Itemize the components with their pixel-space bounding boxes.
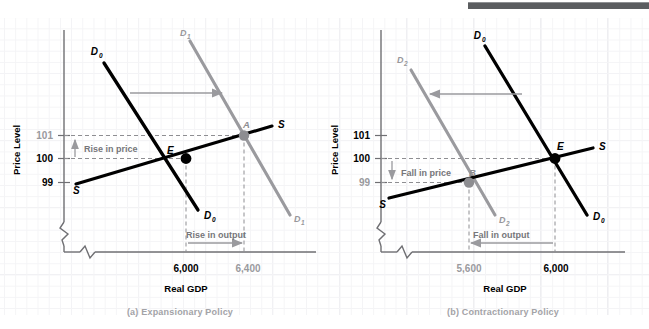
curve-label-d0-bottom: D 0 xyxy=(593,211,605,224)
point-a-marker xyxy=(239,130,249,140)
svg-text:2: 2 xyxy=(403,60,408,67)
svg-text:D: D xyxy=(204,210,211,221)
point-e-marker xyxy=(181,153,192,164)
curve-d0 xyxy=(485,46,587,215)
point-label-a: A xyxy=(242,119,250,130)
panel-caption: (a) Expansionary Policy xyxy=(127,307,233,317)
x-axis-title: Real GDP xyxy=(164,283,208,294)
curve-label-d0-top: D 0 xyxy=(91,46,103,59)
panel-caption: (b) Contractionary Policy xyxy=(447,307,559,317)
annotation-output-change: Fall in output xyxy=(473,230,530,240)
svg-text:D: D xyxy=(474,30,481,41)
svg-text:D: D xyxy=(294,214,301,224)
curve-label-d1-top: D 1 xyxy=(180,28,191,40)
x-tick-label-5600: 5,600 xyxy=(456,263,481,274)
curve-label-s-right: S xyxy=(278,119,285,130)
svg-text:D: D xyxy=(180,28,187,38)
annotation-output-change: Rise in output xyxy=(186,230,246,240)
annotation-price-change: Rise in price xyxy=(84,144,138,154)
svg-text:1: 1 xyxy=(187,33,191,40)
x-axis-break-icon xyxy=(397,246,412,258)
x-tick-label-6400: 6,400 xyxy=(235,263,260,274)
curve-label-d0-top: D 0 xyxy=(474,30,486,43)
y-axis-break-icon xyxy=(60,222,68,246)
svg-text:D: D xyxy=(499,215,506,225)
point-label-e: E xyxy=(557,141,564,152)
panel-expansionary-policy: Price Level 101 100 99 6,000 6,400 Real … xyxy=(0,0,324,329)
curve-label-d2-top: D 2 xyxy=(397,55,408,67)
svg-text:0: 0 xyxy=(212,216,216,223)
annotation-price-change: Fall in price xyxy=(401,168,451,178)
curve-label-d0-bottom: D 0 xyxy=(204,210,216,223)
svg-text:D: D xyxy=(91,46,98,57)
y-axis-break-icon xyxy=(377,222,385,246)
curve-d0 xyxy=(104,63,198,210)
point-e-marker xyxy=(550,153,561,164)
curve-label-d2-bottom: D 2 xyxy=(499,215,510,227)
point-b-marker xyxy=(464,177,474,187)
curve-d2 xyxy=(411,70,495,215)
curve-label-d1-bottom: D 1 xyxy=(294,214,305,226)
point-label-b: B xyxy=(469,167,476,178)
svg-text:0: 0 xyxy=(601,217,605,224)
y-tick-label-101: 101 xyxy=(353,130,370,141)
svg-text:1: 1 xyxy=(301,219,305,226)
curve-label-s-right: S xyxy=(599,141,606,152)
curve-d1 xyxy=(190,41,290,215)
y-tick-label-99: 99 xyxy=(359,177,371,188)
curve-label-s-left: S xyxy=(379,199,386,210)
y-axis-title: Price Level xyxy=(11,125,22,175)
y-tick-label-100: 100 xyxy=(36,153,53,164)
x-tick-label-6000: 6,000 xyxy=(173,263,198,274)
svg-text:D: D xyxy=(593,211,600,222)
y-tick-label-101: 101 xyxy=(36,130,53,141)
point-label-e: E xyxy=(167,145,174,156)
x-axis-break-icon xyxy=(80,246,95,258)
x-axis-title: Real GDP xyxy=(483,283,527,294)
x-tick-label-6000: 6,000 xyxy=(543,263,568,274)
svg-text:2: 2 xyxy=(505,220,510,227)
y-tick-label-100: 100 xyxy=(353,153,370,164)
svg-text:D: D xyxy=(397,55,404,65)
svg-text:0: 0 xyxy=(482,36,486,43)
y-axis-title: Price Level xyxy=(329,125,340,175)
y-tick-label-99: 99 xyxy=(42,177,54,188)
panel-contractionary-policy: Price Level 101 100 99 5,600 6,000 Real … xyxy=(325,0,649,329)
svg-text:0: 0 xyxy=(99,52,103,59)
curve-label-s-left: S xyxy=(73,185,80,196)
